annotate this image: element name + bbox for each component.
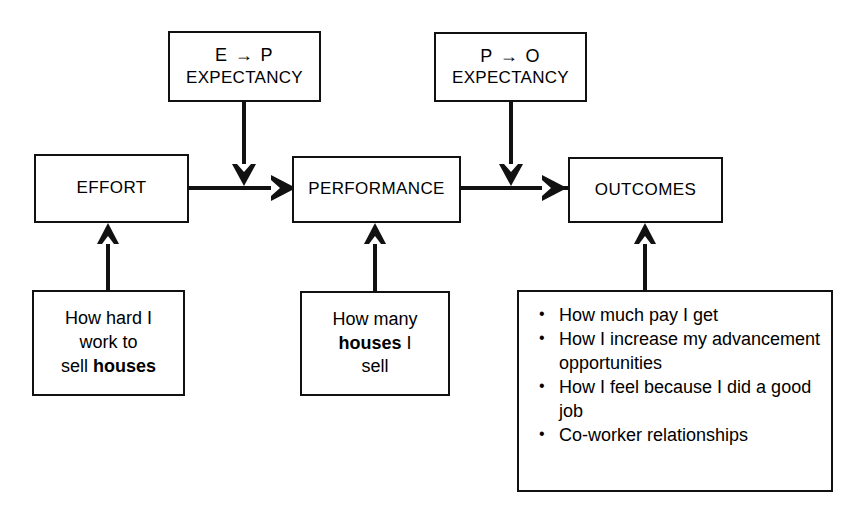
core-box-effort-label: EFFORT — [76, 178, 146, 198]
connector-arrowhead-e-to-p-down — [232, 164, 256, 186]
example-box-effort[interactable]: How hard I work to sell houses — [32, 290, 185, 396]
outcomes-list: • How much pay I get • How I increase my… — [533, 304, 821, 447]
example-box-performance-line-1: How many — [332, 308, 417, 332]
core-box-outcomes-label: OUTCOMES — [595, 180, 696, 200]
connector-line-performance-example-up — [373, 244, 377, 292]
example-box-effort-line-1: How hard I — [65, 307, 152, 331]
core-box-performance[interactable]: PERFORMANCE — [292, 156, 461, 223]
list-item-label: How I increase my advancement opportunit… — [559, 329, 820, 372]
core-box-effort[interactable]: EFFORT — [34, 154, 189, 223]
bullet-icon: • — [539, 376, 545, 397]
expectancy-box-p-to-o[interactable]: P → O EXPECTANCY — [434, 32, 587, 102]
connector-line-e-to-p-down — [242, 102, 246, 164]
example-box-effort-line-3: sell houses — [61, 355, 156, 379]
list-item[interactable]: • How I feel because I did a good job — [533, 376, 821, 423]
list-item-label: How much pay I get — [559, 305, 718, 325]
bullet-icon: • — [539, 328, 545, 349]
list-item[interactable]: • How much pay I get — [533, 304, 821, 327]
example-box-effort-line-2: work to — [79, 331, 137, 355]
connector-arrowhead-performance-to-outcomes — [542, 175, 567, 201]
connector-arrowhead-effort-example-up — [97, 223, 119, 244]
core-box-performance-label: PERFORMANCE — [308, 179, 445, 199]
example-box-performance-line-3: sell — [361, 355, 388, 379]
connector-line-effort-example-up — [106, 244, 110, 292]
connector-line-outcomes-example-up — [643, 244, 647, 291]
list-item-label: Co-worker relationships — [559, 425, 748, 445]
connector-line-p-to-o-down — [509, 102, 513, 164]
connector-arrowhead-performance-example-up — [364, 223, 386, 244]
bullet-icon: • — [539, 304, 545, 325]
example-box-outcomes[interactable]: • How much pay I get • How I increase my… — [517, 290, 833, 492]
bullet-icon: • — [539, 424, 545, 445]
connector-arrowhead-p-to-o-down — [499, 164, 523, 186]
p-to-o-arrow-label: P → O — [480, 46, 541, 67]
core-box-outcomes[interactable]: OUTCOMES — [568, 157, 723, 223]
example-box-performance-line-2: houses I — [338, 332, 411, 356]
expectancy-box-e-to-p[interactable]: E → P EXPECTANCY — [168, 31, 321, 102]
list-item[interactable]: • How I increase my advancement opportun… — [533, 328, 821, 375]
example-box-performance[interactable]: How many houses I sell — [300, 291, 450, 396]
e-to-p-expectancy-label: EXPECTANCY — [186, 68, 303, 88]
list-item-label: How I feel because I did a good job — [559, 377, 811, 420]
connector-arrowhead-outcomes-example-up — [634, 223, 656, 244]
e-to-p-arrow-label: E → P — [215, 45, 274, 66]
p-to-o-expectancy-label: EXPECTANCY — [452, 68, 569, 88]
diagram-canvas: E → P EXPECTANCY P → O EXPECTANCY EFFORT… — [0, 0, 865, 521]
list-item[interactable]: • Co-worker relationships — [533, 424, 821, 447]
